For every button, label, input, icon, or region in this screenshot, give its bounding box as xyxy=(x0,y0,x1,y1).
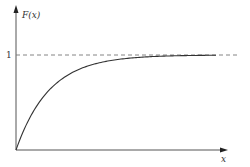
x-axis-arrow-icon xyxy=(220,148,228,153)
cdf-curve xyxy=(16,55,216,150)
y-axis-label: F(x) xyxy=(21,10,41,20)
y-tick-label-1: 1 xyxy=(6,50,12,60)
y-axis-arrow-icon xyxy=(14,5,19,13)
x-axis-label: x xyxy=(221,154,226,164)
chart: 1 F(x) x xyxy=(0,0,250,167)
